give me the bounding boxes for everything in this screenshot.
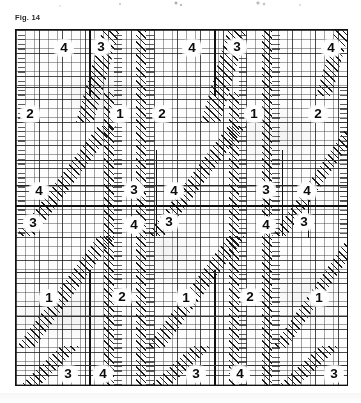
- cell-number: 4: [182, 39, 202, 57]
- vertical-dot-band-3: [239, 30, 247, 386]
- cell-number: 4: [124, 216, 144, 234]
- fine-graph-grid: [16, 30, 347, 385]
- figure-label: Fig. 14: [15, 13, 40, 22]
- scan-artifact-top-band: [0, 0, 361, 12]
- diagram-plate: 434342121243434343431212134343: [15, 29, 348, 386]
- diagonal-band-lower-left: [16, 236, 116, 348]
- cell-number: 3: [324, 365, 344, 383]
- cell-number: 1: [110, 105, 130, 123]
- secondary-vertical-rule-b: [282, 150, 283, 236]
- cell-number: 4: [29, 182, 49, 200]
- vertical-dot-band-1: [114, 30, 122, 386]
- major-vertical-rule-left-lower: [89, 270, 91, 386]
- vertical-hatch-band-4: [262, 30, 272, 386]
- cell-number: 4: [321, 39, 341, 57]
- cell-number: 2: [152, 105, 172, 123]
- vertical-hatch-band-2: [136, 30, 146, 386]
- cell-number: 4: [164, 182, 184, 200]
- minor-horizontal-rule-5: [16, 316, 347, 317]
- cell-number: 1: [244, 105, 264, 123]
- minor-horizontal-rule-2: [16, 160, 347, 161]
- cell-number: 4: [256, 216, 276, 234]
- cell-number: 2: [112, 288, 132, 306]
- cell-number: 3: [91, 38, 111, 56]
- cell-number: 3: [227, 38, 247, 56]
- coarse-graph-grid: [16, 30, 347, 385]
- cell-number: 3: [58, 365, 78, 383]
- vertical-dot-band-2: [146, 30, 154, 386]
- cell-number: 1: [309, 289, 329, 307]
- cell-number: 4: [93, 365, 113, 383]
- scan-artifact-bottom-band: [0, 393, 361, 403]
- cell-number: 3: [186, 365, 206, 383]
- cell-number: 4: [54, 39, 74, 57]
- cell-number: 4: [297, 182, 317, 200]
- vertical-dot-band-right-edge: [340, 90, 348, 235]
- scan-mottle-overlay: [16, 30, 347, 385]
- secondary-vertical-rule-a: [156, 150, 157, 236]
- cell-number: 4: [230, 365, 250, 383]
- minor-horizontal-rule-4: [16, 272, 347, 273]
- cell-number: 1: [176, 289, 196, 307]
- cell-number: 2: [240, 288, 260, 306]
- major-horizontal-rule-mid: [16, 205, 347, 207]
- cell-number: 3: [124, 181, 144, 199]
- cell-number: 3: [159, 213, 179, 231]
- cell-number: 2: [20, 105, 40, 123]
- major-vertical-rule-center-lower: [214, 270, 216, 386]
- diagonal-band-lower-center: [146, 236, 246, 348]
- cell-number: 3: [294, 213, 314, 231]
- vertical-hatch-band-1: [104, 92, 114, 386]
- cell-number: 2: [308, 105, 328, 123]
- vertical-dot-band-4: [272, 30, 280, 386]
- vertical-hatch-band-3: [229, 92, 239, 386]
- cell-number: 1: [39, 289, 59, 307]
- cell-number: 3: [23, 214, 43, 232]
- minor-horizontal-rule-1: [16, 87, 347, 88]
- cell-number: 3: [256, 181, 276, 199]
